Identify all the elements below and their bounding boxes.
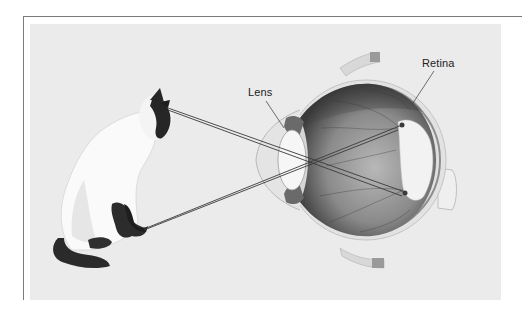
cat-ear xyxy=(150,88,164,102)
lens-leader-line xyxy=(266,101,284,128)
eyeball-illustration xyxy=(256,52,457,268)
cat-illustration xyxy=(53,88,172,268)
retina-leader-line xyxy=(413,71,434,103)
lens-label: Lens xyxy=(248,86,272,98)
lens xyxy=(278,130,306,190)
retina-label: Retina xyxy=(422,57,454,69)
cat-hind-paw xyxy=(88,237,112,249)
eye-diagram xyxy=(0,0,522,316)
